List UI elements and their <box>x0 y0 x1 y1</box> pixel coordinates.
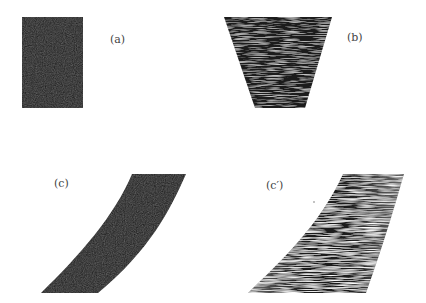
panel-a-rectangle <box>22 17 83 108</box>
panel-c-prime-label: (c′) <box>266 179 283 192</box>
panel-b-label: (b) <box>347 31 363 44</box>
panel-a-label: (a) <box>110 33 125 46</box>
stray-dot <box>313 201 315 203</box>
figure-canvas <box>0 0 426 303</box>
panel-c-curved-band <box>41 174 186 293</box>
panel-c-label: (c) <box>54 177 69 190</box>
panel-b-trapezoid <box>224 17 332 108</box>
